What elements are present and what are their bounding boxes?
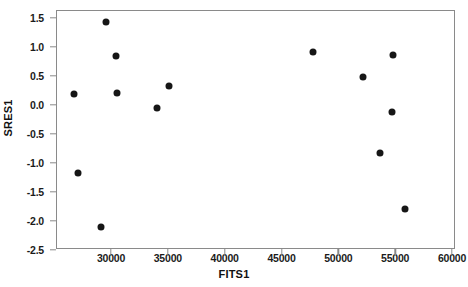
y-tick-label: 0.0 bbox=[30, 99, 44, 111]
y-tick-mark bbox=[50, 133, 56, 134]
x-axis-title: FITS1 bbox=[0, 268, 468, 280]
y-tick-mark bbox=[50, 104, 56, 105]
y-tick-label: 0.5 bbox=[30, 70, 44, 82]
x-tick-mark bbox=[394, 249, 395, 255]
x-tick-mark bbox=[224, 249, 225, 255]
y-tick-label: -0.5 bbox=[27, 128, 44, 140]
y-axis-title: SRES1 bbox=[2, 88, 14, 148]
y-tick-mark bbox=[50, 191, 56, 192]
scatter-plot-figure: 1.51.00.50.0-0.5-1.0-1.5-2.0-2.5 3000035… bbox=[0, 0, 468, 287]
y-tick-mark bbox=[50, 220, 56, 221]
y-tick-label: 1.5 bbox=[30, 12, 44, 24]
y-tick-label: 1.0 bbox=[30, 41, 44, 53]
plot-area-frame bbox=[56, 10, 455, 249]
x-tick-mark bbox=[167, 249, 168, 255]
y-tick-mark bbox=[50, 17, 56, 18]
x-tick-mark bbox=[110, 249, 111, 255]
y-tick-mark bbox=[50, 75, 56, 76]
x-tick-mark bbox=[338, 249, 339, 255]
y-tick-label: -1.0 bbox=[27, 157, 44, 169]
y-tick-mark bbox=[50, 46, 56, 47]
x-tick-mark bbox=[451, 249, 452, 255]
y-tick-label: -2.5 bbox=[27, 244, 44, 256]
y-tick-label: -1.5 bbox=[27, 186, 44, 198]
y-tick-mark bbox=[50, 162, 56, 163]
y-tick-mark bbox=[50, 249, 56, 250]
y-tick-label: -2.0 bbox=[27, 215, 44, 227]
x-tick-mark bbox=[281, 249, 282, 255]
